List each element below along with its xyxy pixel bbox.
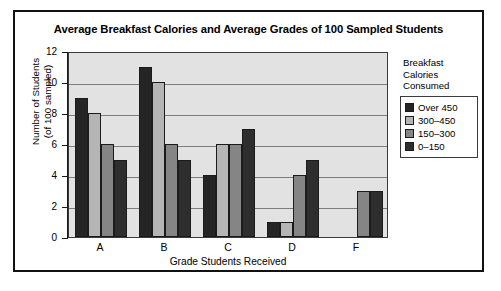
y-axis-tick-label: 6 [17, 139, 57, 150]
x-axis-tick-label: C [213, 241, 243, 253]
bar [88, 113, 101, 237]
legend-item: 0–150 [405, 140, 473, 153]
bar [280, 222, 293, 238]
y-axis-tick [62, 83, 68, 84]
bar [357, 191, 370, 238]
y-axis-tick-label: 10 [17, 77, 57, 88]
y-axis-tick [62, 145, 68, 146]
gridline [69, 84, 387, 85]
legend-item: Over 450 [405, 101, 473, 114]
bar [306, 160, 319, 238]
legend-box: Over 450300–450150–3000–150 [400, 96, 478, 158]
chart-legend: Breakfast Calories Consumed Over 450300–… [400, 57, 480, 158]
bar [216, 144, 229, 237]
plot-area [68, 52, 388, 238]
y-axis-tick [62, 114, 68, 115]
legend-label: 150–300 [418, 128, 455, 139]
bar [152, 82, 165, 237]
y-axis-tick [62, 52, 68, 53]
x-axis-title: Grade Students Received [68, 256, 388, 267]
x-axis-tick-label: A [85, 241, 115, 253]
bar [370, 191, 383, 238]
gridline [69, 115, 387, 116]
legend-swatch [405, 103, 414, 112]
legend-swatch [405, 142, 414, 151]
chart-figure: Average Breakfast Calories and Average G… [13, 10, 484, 272]
legend-swatch [405, 129, 414, 138]
bar [139, 67, 152, 238]
x-axis-tick-label: D [277, 241, 307, 253]
bar [229, 144, 242, 237]
legend-item: 150–300 [405, 127, 473, 140]
legend-label: 0–150 [418, 141, 445, 152]
bar [114, 160, 127, 238]
legend-title-line2: Calories [403, 69, 480, 81]
legend-item: 300–450 [405, 114, 473, 127]
y-axis-tick-label: 0 [17, 232, 57, 243]
legend-swatch [405, 116, 414, 125]
legend-title-line1: Breakfast [403, 57, 480, 69]
bar [203, 175, 216, 237]
bar [178, 160, 191, 238]
y-axis-tick-label: 8 [17, 108, 57, 119]
x-axis-tick-label: F [341, 241, 371, 253]
y-axis-tick-label: 2 [17, 201, 57, 212]
legend-label: 300–450 [418, 115, 455, 126]
bar [75, 98, 88, 238]
y-axis-tick [62, 207, 68, 208]
bar [242, 129, 255, 238]
y-axis-tick [62, 238, 68, 239]
bar [165, 144, 178, 237]
legend-label: Over 450 [418, 102, 457, 113]
legend-title-line3: Consumed [403, 80, 480, 92]
y-axis-tick-label: 12 [17, 46, 57, 57]
x-axis-tick-label: B [149, 241, 179, 253]
bar [267, 222, 280, 238]
bar [293, 175, 306, 237]
chart-title: Average Breakfast Calories and Average G… [15, 23, 482, 35]
legend-title: Breakfast Calories Consumed [400, 57, 480, 92]
y-axis-tick-label: 4 [17, 170, 57, 181]
bar [101, 144, 114, 237]
y-axis-tick [62, 176, 68, 177]
